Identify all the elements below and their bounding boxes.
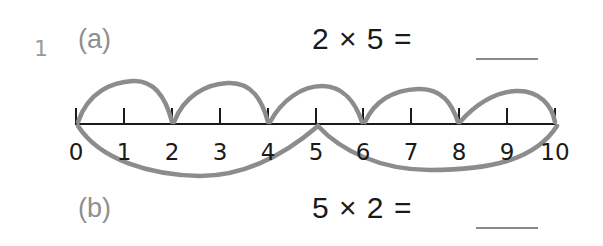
number-line-ticks [76,108,555,125]
svg-text:2: 2 [165,139,180,165]
svg-text:9: 9 [500,139,515,165]
svg-text:10: 10 [540,139,569,165]
part-b-label: (b) [78,193,111,224]
svg-text:3: 3 [213,139,228,165]
svg-text:8: 8 [452,139,467,165]
svg-text:5: 5 [309,139,324,165]
svg-text:4: 4 [261,139,276,165]
part-b-answer-blank[interactable] [476,227,538,229]
svg-text:7: 7 [404,139,419,165]
number-line-labels: 0 1 2 3 4 5 6 7 8 9 10 [69,139,570,165]
svg-text:6: 6 [356,139,371,165]
part-b-expression: 5 × 2 = [312,191,412,225]
svg-text:0: 0 [69,139,84,165]
svg-text:1: 1 [117,139,132,165]
